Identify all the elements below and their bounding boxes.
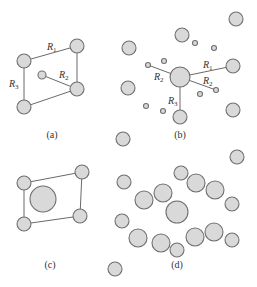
atom xyxy=(17,176,31,190)
atom xyxy=(187,174,205,192)
atom xyxy=(229,12,243,26)
caption-b: (b) xyxy=(174,129,186,141)
atom xyxy=(225,197,239,211)
atom xyxy=(17,100,31,114)
caption-d: (d) xyxy=(171,259,183,271)
atom-small xyxy=(212,46,217,51)
atom xyxy=(122,41,136,55)
atom xyxy=(17,54,31,68)
label-r1: R1 xyxy=(202,59,213,72)
atom-small xyxy=(161,109,166,114)
atom xyxy=(170,243,184,257)
caption-c: (c) xyxy=(44,259,55,271)
bond xyxy=(24,216,80,224)
label-r1: R1 xyxy=(46,41,57,54)
atom xyxy=(129,229,147,247)
atom xyxy=(117,175,131,189)
atom xyxy=(116,132,130,146)
atom xyxy=(154,184,172,202)
atom-small xyxy=(162,59,167,64)
label-r2: R2 xyxy=(58,69,69,82)
panel-d: (d) xyxy=(108,150,244,276)
atom xyxy=(230,150,244,164)
atom xyxy=(205,223,223,241)
atom xyxy=(206,181,224,199)
atom-small xyxy=(38,71,46,79)
label-r3: R3 xyxy=(8,78,19,91)
atom-small xyxy=(144,104,149,109)
panel-b: R1 R2 R2 R3 (b) xyxy=(116,12,243,146)
atom xyxy=(174,166,188,180)
atom xyxy=(226,59,240,73)
figure: R1 R2 R3 (a) R1 R2 R2 R3 (b) xyxy=(0,0,257,287)
atom xyxy=(115,214,129,228)
atom xyxy=(70,82,84,96)
atom xyxy=(225,233,239,247)
atom xyxy=(75,165,89,179)
bond xyxy=(24,172,82,183)
label-r3: R3 xyxy=(167,95,178,108)
panel-c: (c) xyxy=(17,165,89,271)
atom xyxy=(135,191,153,209)
atom xyxy=(152,234,170,252)
atom-small xyxy=(146,63,151,68)
atom xyxy=(121,81,135,95)
atom xyxy=(173,110,187,124)
atom-center xyxy=(170,67,190,87)
atom xyxy=(17,217,31,231)
atom xyxy=(108,262,122,276)
label-r2-left: R2 xyxy=(153,71,164,84)
atom xyxy=(175,28,189,42)
atom xyxy=(70,39,84,53)
bond xyxy=(24,89,77,107)
atom xyxy=(226,103,240,117)
atom xyxy=(73,209,87,223)
caption-a: (a) xyxy=(46,129,57,141)
atom xyxy=(186,228,204,246)
atom-small xyxy=(214,88,219,93)
atom-small xyxy=(198,92,203,97)
atom-large xyxy=(166,201,188,223)
atom-large xyxy=(30,186,56,212)
panel-a: R1 R2 R3 (a) xyxy=(8,39,84,141)
atom-small xyxy=(193,41,198,46)
